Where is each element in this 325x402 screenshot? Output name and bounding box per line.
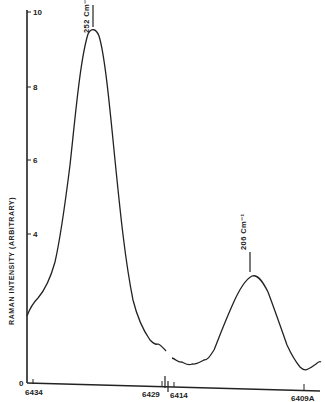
- x-tick-6414: 6414: [170, 391, 188, 400]
- y-tick-0: 0: [19, 379, 24, 388]
- x-tick-6409A: 6409A: [291, 394, 315, 402]
- y-tick-6: 6: [33, 156, 38, 165]
- raman-spectrum-chart: 10 8 6 4 0 RAMAN INTENSITY (ARBITRARY) 6…: [0, 0, 325, 402]
- y-axis-title: RAMAN INTENSITY (ARBITRARY): [8, 197, 16, 325]
- spectrum-curve-peak-252: [27, 30, 166, 351]
- peak-label-206: 206 Cm⁻¹: [239, 214, 248, 250]
- peak-label-252: 252 Cm⁻¹: [82, 0, 91, 33]
- y-tick-4: 4: [33, 230, 38, 239]
- y-tick-10: 10: [33, 8, 42, 17]
- x-tick-6429: 6429: [142, 390, 160, 399]
- x-tick-6434: 6434: [25, 388, 43, 397]
- spectrum-curve-peak-206: [172, 276, 321, 370]
- y-tick-8: 8: [33, 83, 38, 92]
